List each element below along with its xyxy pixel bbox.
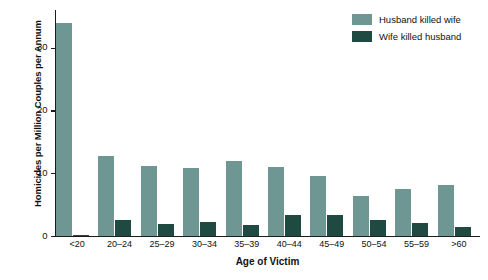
bar <box>455 227 471 236</box>
bar-groups: <2020–2425–2930–3435–3940–4445–4950–5455… <box>56 10 480 236</box>
bar <box>183 168 199 236</box>
bar <box>200 222 216 236</box>
y-tick-label: 20 <box>37 104 48 115</box>
bar <box>98 156 114 236</box>
plot-area: 0102030 <2020–2425–2930–3435–3940–4445–4… <box>55 10 480 236</box>
x-tick-label: 30–34 <box>183 239 225 249</box>
bar <box>285 215 301 236</box>
x-tick-label: >60 <box>438 239 480 249</box>
bar <box>226 161 242 236</box>
chart-legend: Husband killed wife Wife killed husband <box>352 14 461 42</box>
x-tick-label: 55–59 <box>395 239 437 249</box>
y-tick: 20 <box>51 110 56 111</box>
bar-chart: Homicides per Million Couples per Annum … <box>0 0 488 280</box>
bar <box>395 189 411 236</box>
bar-group: 50–54 <box>353 10 395 236</box>
legend-item-wife-killed-husband: Wife killed husband <box>352 31 461 42</box>
bar <box>327 215 343 236</box>
x-axis-line <box>55 236 480 237</box>
y-tick-label: 30 <box>37 41 48 52</box>
x-axis-title: Age of Victim <box>55 256 480 267</box>
bar-group: 45–49 <box>310 10 352 236</box>
bar <box>353 196 369 236</box>
legend-label: Wife killed husband <box>379 31 461 42</box>
bar <box>243 225 259 236</box>
bar <box>438 185 454 236</box>
y-tick: 10 <box>51 173 56 174</box>
y-tick: 30 <box>51 48 56 49</box>
y-tick-label: 10 <box>37 167 48 178</box>
bar <box>412 223 428 236</box>
bar <box>310 176 326 236</box>
bar <box>158 224 174 236</box>
bar-group: <20 <box>56 10 98 236</box>
bar <box>73 235 89 236</box>
legend-label: Husband killed wife <box>379 14 461 25</box>
bar-group: 20–24 <box>98 10 140 236</box>
x-tick-label: 20–24 <box>98 239 140 249</box>
bar-group: 35–39 <box>226 10 268 236</box>
x-tick-label: 45–49 <box>310 239 352 249</box>
bar <box>115 220 131 236</box>
x-tick-label: 40–44 <box>268 239 310 249</box>
legend-swatch-icon-husband-killed-wife <box>352 14 372 25</box>
bar <box>56 23 72 236</box>
bar-group: 55–59 <box>395 10 437 236</box>
bar <box>268 167 284 236</box>
x-tick-label: 25–29 <box>141 239 183 249</box>
bar <box>141 166 157 236</box>
legend-swatch-icon-wife-killed-husband <box>352 31 372 42</box>
bar-group: 25–29 <box>141 10 183 236</box>
x-tick-label: <20 <box>56 239 98 249</box>
y-tick-label: 0 <box>42 230 47 241</box>
bar-group: >60 <box>438 10 480 236</box>
bar-group: 30–34 <box>183 10 225 236</box>
bar-group: 40–44 <box>268 10 310 236</box>
y-tick: 0 <box>51 236 56 237</box>
x-tick-label: 50–54 <box>353 239 395 249</box>
legend-item-husband-killed-wife: Husband killed wife <box>352 14 461 25</box>
bar <box>370 220 386 236</box>
x-tick-label: 35–39 <box>226 239 268 249</box>
